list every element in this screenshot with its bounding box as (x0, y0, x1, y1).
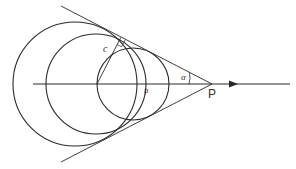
lower-tangent-line (61, 84, 212, 162)
upper-tangent-line (61, 6, 212, 84)
u-label: u (144, 86, 149, 95)
arrow-head-icon (229, 81, 238, 88)
mach-cone-diagram: c u α P (0, 0, 296, 169)
alpha-label: α (181, 73, 186, 82)
point-p-label: P (208, 88, 216, 100)
chord-c-label: c (103, 44, 107, 54)
alpha-angle-arc (189, 73, 190, 85)
